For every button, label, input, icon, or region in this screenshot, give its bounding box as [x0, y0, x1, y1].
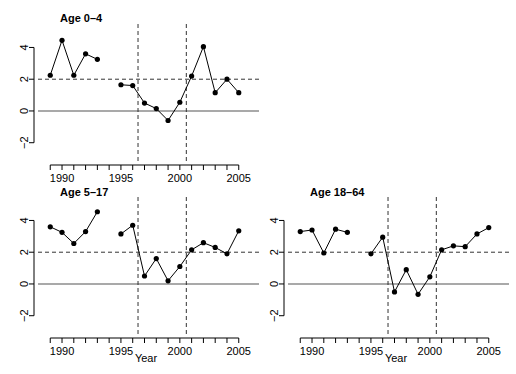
data-point [486, 225, 491, 230]
x-tick-label: 2005 [227, 172, 251, 184]
y-tick-label: −2 [18, 309, 30, 322]
panel-title: Age 5–17 [60, 186, 108, 198]
data-point [392, 289, 397, 294]
series-line-segment-2 [121, 225, 239, 281]
data-point [368, 251, 373, 256]
data-point [404, 267, 409, 272]
x-tick-label: 2000 [168, 345, 192, 357]
data-point [142, 100, 147, 105]
data-point [427, 274, 432, 279]
panel-age-0-4: −20241990199520002005Age 0–4 [18, 12, 259, 184]
y-tick-label: 0 [18, 281, 30, 287]
panel-age-18-64: −20241990199520002005Age 18–64Year [268, 186, 509, 364]
data-point [142, 273, 147, 278]
data-point [463, 244, 468, 249]
data-point [154, 256, 159, 261]
data-point [95, 57, 100, 62]
data-point [118, 231, 123, 236]
data-point [165, 118, 170, 123]
data-point [333, 227, 338, 232]
y-tick-label: 4 [18, 44, 30, 50]
y-tick-label: −2 [268, 309, 280, 322]
data-point [439, 247, 444, 252]
panel-title: Age 0–4 [60, 12, 103, 24]
data-point [165, 278, 170, 283]
data-point [189, 247, 194, 252]
x-tick-label: 2000 [168, 172, 192, 184]
x-tick-label: 1995 [109, 345, 133, 357]
data-point [201, 240, 206, 245]
data-point [83, 229, 88, 234]
series-line-segment-1 [50, 40, 97, 75]
data-point [298, 229, 303, 234]
data-point [189, 73, 194, 78]
y-tick-label: 2 [18, 249, 30, 255]
data-point [48, 224, 53, 229]
data-point [451, 243, 456, 248]
x-tick-label: 2005 [227, 345, 251, 357]
data-point [201, 44, 206, 49]
x-tick-label: 1995 [359, 345, 383, 357]
chart-svg: −20241990199520002005Age 0–4−20241990199… [0, 0, 516, 374]
y-tick-label: 4 [268, 217, 280, 223]
y-tick-label: 4 [18, 217, 30, 223]
data-point [130, 83, 135, 88]
data-point [59, 38, 64, 43]
data-point [213, 245, 218, 250]
x-tick-label: 1990 [300, 345, 324, 357]
data-point [224, 77, 229, 82]
figure-container: −20241990199520002005Age 0–4−20241990199… [0, 0, 516, 374]
x-tick-label: 1990 [50, 345, 74, 357]
series-line-segment-1 [50, 212, 97, 244]
data-point [118, 82, 123, 87]
data-point [236, 90, 241, 95]
data-point [415, 292, 420, 297]
data-point [71, 73, 76, 78]
x-axis-title: Year [135, 352, 158, 364]
data-point [130, 223, 135, 228]
panel-age-5-17: −20241990199520002005Age 5–17Year [18, 186, 259, 364]
x-tick-label: 2000 [418, 345, 442, 357]
x-tick-label: 1990 [50, 172, 74, 184]
data-point [213, 90, 218, 95]
data-point [236, 228, 241, 233]
data-point [321, 250, 326, 255]
x-axis-title: Year [385, 352, 408, 364]
y-tick-label: 2 [268, 249, 280, 255]
data-point [309, 227, 314, 232]
data-point [95, 209, 100, 214]
data-point [345, 230, 350, 235]
data-point [380, 235, 385, 240]
data-point [83, 51, 88, 56]
data-point [154, 106, 159, 111]
x-tick-label: 1995 [109, 172, 133, 184]
y-tick-label: 0 [18, 108, 30, 114]
y-tick-label: 2 [18, 76, 30, 82]
data-point [48, 73, 53, 78]
panel-title: Age 18–64 [310, 186, 365, 198]
data-point [71, 241, 76, 246]
data-point [177, 100, 182, 105]
x-tick-label: 2005 [477, 345, 501, 357]
series-line-segment-2 [121, 47, 239, 121]
data-point [59, 230, 64, 235]
data-point [474, 231, 479, 236]
y-tick-label: −2 [18, 136, 30, 149]
series-line-segment-1 [300, 229, 347, 253]
data-point [224, 251, 229, 256]
data-point [177, 264, 182, 269]
y-tick-label: 0 [268, 281, 280, 287]
